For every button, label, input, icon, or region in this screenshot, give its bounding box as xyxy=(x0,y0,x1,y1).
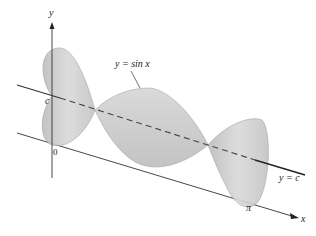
x-axis-label: x xyxy=(300,213,306,224)
curve-label-leader xyxy=(131,71,140,88)
y-axis-label: y xyxy=(48,7,54,18)
y-axis-arrow-icon xyxy=(50,22,55,29)
left-lobe xyxy=(42,48,95,146)
origin-label: 0 xyxy=(53,147,58,157)
solid-of-revolution-diagram: y y = sin x c 0 y = c π x xyxy=(0,0,316,236)
c-label: c xyxy=(45,95,50,106)
x-axis-arrow-icon xyxy=(290,213,299,219)
curve-label: y = sin x xyxy=(114,58,150,69)
rotation-axis-label: y = c xyxy=(278,172,300,183)
middle-lobe xyxy=(95,88,208,167)
